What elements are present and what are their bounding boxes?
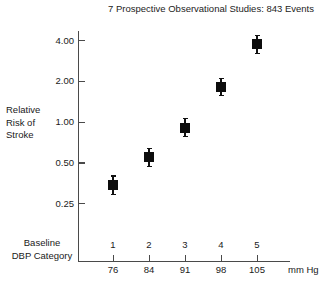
x-category-label-4: 4 bbox=[206, 240, 236, 250]
x-tick-2 bbox=[149, 255, 150, 261]
y-tick-0.25 bbox=[79, 203, 85, 204]
x-category-label-1: 1 bbox=[98, 240, 128, 250]
x-category-label-5: 5 bbox=[242, 240, 272, 250]
data-point-category-5 bbox=[252, 39, 262, 49]
x-value-label-91: 91 bbox=[170, 265, 200, 275]
data-point-category-4 bbox=[216, 82, 226, 92]
x-category-label-3: 3 bbox=[170, 240, 200, 250]
y-axis-line bbox=[78, 31, 79, 262]
error-bar-cap-5-upper bbox=[255, 35, 260, 36]
error-bar-cap-2-lower bbox=[147, 166, 152, 167]
x-axis-line bbox=[78, 261, 290, 262]
data-point-category-2 bbox=[144, 152, 154, 162]
x-axis-title-line-1: Baseline bbox=[8, 237, 76, 250]
x-tick-3 bbox=[185, 255, 186, 261]
y-tick-label-0.25: 0.25 bbox=[34, 199, 74, 209]
error-bar-cap-1-upper bbox=[111, 175, 116, 176]
error-bar-cap-5-lower bbox=[255, 53, 260, 54]
x-tick-1 bbox=[113, 255, 114, 261]
y-axis-title-line-3: Stroke bbox=[6, 129, 68, 142]
error-bar-cap-3-upper bbox=[183, 118, 188, 119]
error-bar-cap-4-lower bbox=[219, 95, 224, 96]
chart-figure: 7 Prospective Observational Studies: 843… bbox=[0, 0, 324, 297]
y-tick-label-2.00: 2.00 bbox=[34, 76, 74, 86]
error-bar-cap-1-lower bbox=[111, 194, 116, 195]
x-axis-title-line-2: DBP Category bbox=[8, 250, 76, 263]
error-bar-cap-2-upper bbox=[147, 148, 152, 149]
x-axis-unit-label: mm Hg bbox=[288, 265, 324, 275]
y-tick-label-0.50: 0.50 bbox=[34, 158, 74, 168]
y-tick-4.00 bbox=[79, 40, 85, 41]
x-value-label-105: 105 bbox=[242, 265, 272, 275]
chart-title: 7 Prospective Observational Studies: 843… bbox=[100, 3, 322, 15]
error-bar-cap-4-upper bbox=[219, 78, 224, 79]
y-tick-label-1.00: 1.00 bbox=[34, 117, 74, 127]
y-tick-label-4.00: 4.00 bbox=[34, 36, 74, 46]
x-value-label-84: 84 bbox=[134, 265, 164, 275]
data-point-category-1 bbox=[108, 180, 118, 190]
y-tick-1.00 bbox=[79, 122, 85, 123]
y-tick-0.50 bbox=[79, 162, 85, 163]
error-bar-cap-3-lower bbox=[183, 136, 188, 137]
x-category-label-2: 2 bbox=[134, 240, 164, 250]
y-tick-2.00 bbox=[79, 81, 85, 82]
x-tick-5 bbox=[257, 255, 258, 261]
x-axis-title: Baseline DBP Category bbox=[8, 237, 76, 262]
y-axis-title-line-1: Relative bbox=[6, 104, 68, 117]
x-value-label-76: 76 bbox=[98, 265, 128, 275]
x-tick-4 bbox=[221, 255, 222, 261]
data-point-category-3 bbox=[180, 123, 190, 133]
x-value-label-98: 98 bbox=[206, 265, 236, 275]
